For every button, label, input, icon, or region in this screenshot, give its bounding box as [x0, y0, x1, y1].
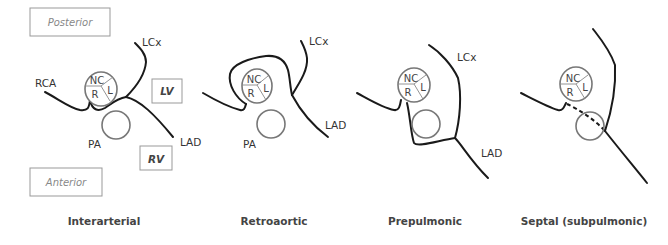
rca-vessel — [203, 93, 246, 110]
cusp-l-label: L — [582, 82, 588, 93]
pa-label: PA — [88, 138, 102, 150]
rca-vessel — [521, 93, 566, 110]
lad-vessel — [292, 95, 328, 137]
lad-label: LAD — [481, 147, 502, 159]
cusp-l-label: L — [107, 85, 113, 96]
lad-label: LAD — [325, 119, 346, 131]
cusp-r-label: R — [92, 89, 99, 100]
panel-prepulmonic: NC R L LCx LAD Prepulmonic — [357, 45, 502, 227]
lcx-label: LCx — [309, 35, 328, 47]
lad-label: LAD — [180, 136, 201, 148]
rca-vessel — [357, 93, 401, 110]
pulmonary-artery — [412, 110, 440, 138]
cusp-r-label: R — [567, 87, 574, 98]
caption-prepulmonic: Prepulmonic — [388, 215, 462, 227]
cusp-r-label: R — [248, 88, 255, 99]
rca-vessel — [45, 92, 90, 110]
lv-label: LV — [160, 85, 174, 97]
panel-interarterial: Posterior Anterior LV RV NC R L RCA LCx … — [30, 8, 201, 227]
cusp-l-label: L — [263, 83, 269, 94]
caption-septal: Septal (subpulmonic) — [521, 215, 647, 227]
pulmonary-artery — [257, 110, 285, 138]
caption-retroaortic: Retroaortic — [241, 215, 308, 227]
rca-label: RCA — [35, 77, 57, 89]
pa-label: PA — [243, 138, 257, 150]
pulmonary-artery — [102, 111, 130, 139]
lcx-label: LCx — [142, 36, 161, 48]
caption-interarterial: Interarterial — [68, 215, 141, 227]
cusp-nc-label: NC — [90, 75, 104, 86]
rv-label: RV — [148, 153, 165, 165]
panel-septal: NC R L Septal (subpulmonic) — [521, 29, 647, 227]
septal-course-dashed — [567, 104, 605, 131]
cusp-r-label: R — [405, 87, 412, 98]
cusp-nc-label: NC — [566, 73, 580, 84]
posterior-label: Posterior — [48, 17, 93, 28]
anterior-label: Anterior — [45, 177, 87, 188]
cusp-nc-label: NC — [404, 73, 418, 84]
lcx-label: LCx — [457, 51, 476, 63]
pulmonary-artery — [576, 112, 604, 140]
lcx-vessel — [593, 29, 615, 131]
lad-vessel — [605, 131, 647, 183]
cusp-nc-label: NC — [247, 74, 261, 85]
lcx-vessel — [292, 41, 307, 95]
panel-retroaortic: NC R L LCx LAD PA Retroaortic — [203, 35, 346, 227]
cusp-l-label: L — [420, 82, 426, 93]
lcx-vessel — [126, 43, 146, 97]
